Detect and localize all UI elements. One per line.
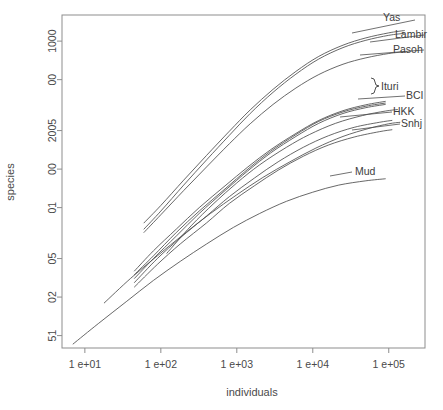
- series-label-ituri: Ituri: [381, 80, 399, 92]
- curve-ituri-3: [134, 104, 385, 278]
- leader-bci: [358, 96, 405, 99]
- curve-unlabeled-steep: [104, 122, 400, 303]
- y-axis-title: species: [4, 163, 16, 201]
- y-tick-label-500: 00: [46, 74, 58, 86]
- series-curves: [73, 31, 404, 344]
- y-tick-label-100: 00: [46, 163, 58, 175]
- curve-snhj: [134, 130, 391, 287]
- leader-hkk: [340, 112, 392, 117]
- x-tick-label-1000: 1 e+03: [221, 358, 254, 370]
- curve-lambir: [144, 33, 404, 229]
- series-label-hkk: HKK: [393, 105, 415, 117]
- species-accumulation-chart: 10000020050001050251 1 e+011 e+021 e+031…: [0, 0, 443, 410]
- plot-frame: [62, 15, 425, 348]
- series-label-yas: Yas: [383, 11, 400, 23]
- y-tick-label-50: 01: [46, 202, 58, 214]
- x-axis-title: individuals: [226, 386, 278, 398]
- y-tick-label-200: 2005: [46, 119, 58, 143]
- series-label-snhj: Snhj: [401, 117, 422, 129]
- y-tick-label-20: 05: [46, 253, 58, 265]
- x-axis-tick-labels: 1 e+011 e+021 e+031 e+041 e+05: [69, 358, 405, 370]
- x-tick-label-100000: 1 e+05: [373, 358, 406, 370]
- chart-canvas: 10000020050001050251 1 e+011 e+021 e+031…: [0, 0, 443, 410]
- y-tick-label-5: 51: [46, 330, 58, 342]
- curve-pasoh: [144, 52, 404, 233]
- series-label-pasoh: Pasoh: [393, 43, 423, 55]
- leader-mud: [330, 172, 352, 176]
- y-tick-label-1000: 1000: [46, 29, 58, 53]
- leader-snhj: [352, 124, 400, 130]
- x-tick-label-100: 1 e+02: [145, 358, 178, 370]
- curve-yas: [144, 31, 404, 223]
- x-tick-label-10000: 1 e+04: [297, 358, 330, 370]
- series-label-mud: Mud: [355, 165, 376, 177]
- series-label-bci: BCI: [406, 89, 424, 101]
- ituri-group-brace: [371, 78, 379, 94]
- series-label-lambir: Lambir: [395, 28, 428, 40]
- x-axis-ticks: [85, 348, 389, 353]
- y-axis-tick-labels: 10000020050001050251: [46, 29, 58, 341]
- y-tick-label-10: 02: [46, 291, 58, 303]
- x-tick-label-10: 1 e+01: [69, 358, 102, 370]
